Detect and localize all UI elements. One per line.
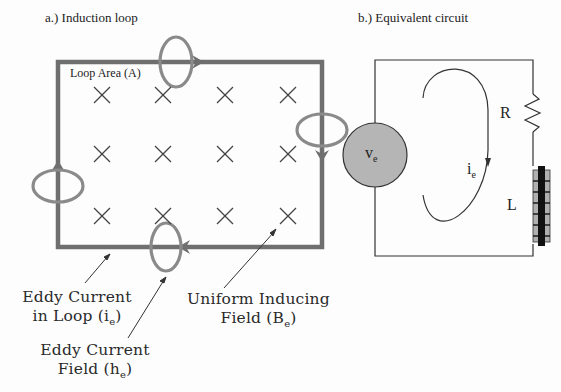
- cross-icon: [155, 87, 171, 103]
- cross-icon: [155, 208, 171, 224]
- cross-icon: [155, 146, 171, 162]
- callout-line2: Field (he): [30, 360, 160, 384]
- current-label: ie: [467, 160, 476, 180]
- callout-line1: Eddy Current: [12, 288, 142, 307]
- panel-b-title: b.) Equivalent circuit: [358, 10, 468, 26]
- callout-uniform-field: Uniform Inducing Field (Be): [176, 290, 341, 333]
- source-label: ve: [365, 144, 377, 164]
- cross-icon: [280, 208, 296, 224]
- leader-eddy-current-loop: [85, 256, 108, 283]
- loop-area-label: Loop Area (A): [70, 66, 141, 81]
- resistor-label: R: [500, 104, 511, 122]
- callout-eddy-current-field: Eddy Current Field (he): [30, 341, 160, 384]
- resistor-icon: [525, 94, 540, 132]
- diagram-graphics: [0, 0, 561, 392]
- cross-icon: [94, 87, 110, 103]
- callout-eddy-current-loop: Eddy Current in Loop (ie): [12, 288, 142, 331]
- figure-canvas: a.) Induction loop Loop Area (A) Eddy Cu…: [0, 0, 561, 392]
- cross-icon: [94, 146, 110, 162]
- inductor-label: L: [507, 196, 517, 214]
- inductor-icon: [533, 166, 550, 246]
- callout-line2: Field (Be): [176, 309, 341, 333]
- callout-line1: Eddy Current: [30, 341, 160, 360]
- current-loop-icon: [423, 69, 488, 221]
- cross-icon: [280, 146, 296, 162]
- current-arrow-down-icon: [485, 158, 491, 167]
- cross-icon: [217, 208, 233, 224]
- field-crosses: [94, 87, 296, 224]
- leader-uniform-field: [224, 232, 274, 288]
- callout-line1: Uniform Inducing: [176, 290, 341, 309]
- panel-a-title: a.) Induction loop: [45, 10, 138, 26]
- callout-line2: in Loop (ie): [12, 307, 142, 331]
- cross-icon: [217, 146, 233, 162]
- cross-icon: [217, 87, 233, 103]
- cross-icon: [94, 208, 110, 224]
- cross-icon: [280, 87, 296, 103]
